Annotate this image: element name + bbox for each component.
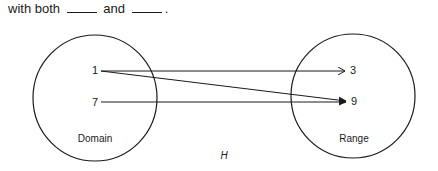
domain-element-1: 1 xyxy=(92,64,98,76)
domain-set: 1 7 Domain xyxy=(33,35,157,161)
domain-element-7: 7 xyxy=(92,96,98,108)
range-set: 3 9 Range xyxy=(291,34,415,158)
mapping-arrows xyxy=(101,71,346,102)
range-element-9: 9 xyxy=(351,95,357,107)
domain-label: Domain xyxy=(78,133,112,144)
function-mapping-diagram: 1 7 Domain 3 9 Range H xyxy=(0,0,438,171)
range-element-3: 3 xyxy=(350,64,356,76)
arrow-1-to-9 xyxy=(101,71,346,101)
function-label: H xyxy=(220,150,228,161)
range-label: Range xyxy=(339,133,369,144)
